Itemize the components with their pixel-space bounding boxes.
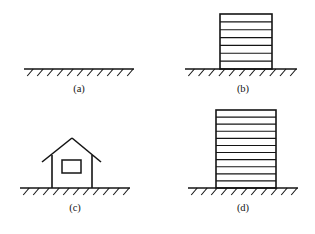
ground-hatching-a: [27, 69, 133, 76]
panel-c: (c): [20, 138, 130, 214]
hatch-tick: [67, 69, 73, 76]
hatch-tick: [281, 188, 287, 195]
hatch-tick: [33, 188, 39, 195]
hatch-tick: [73, 188, 79, 195]
hatch-tick: [37, 69, 43, 76]
hatch-tick: [290, 69, 296, 76]
house-roof-right: [72, 138, 101, 162]
figure-container: (a)(b)(c)(d): [0, 0, 315, 234]
hatch-tick: [47, 69, 53, 76]
hatch-tick: [123, 188, 129, 195]
panels-group: (a)(b)(c)(d): [20, 14, 298, 214]
panel-label-c: (c): [69, 202, 81, 214]
floor-lines-b: [220, 22, 272, 61]
hatch-tick: [280, 69, 286, 76]
hatch-tick: [93, 188, 99, 195]
panel-label-b: (b): [237, 83, 250, 95]
hatch-tick: [219, 69, 225, 76]
hatch-tick: [113, 188, 119, 195]
hatch-tick: [251, 188, 257, 195]
ground-hatching-d: [191, 188, 297, 195]
building-outline-d: [216, 110, 276, 188]
hatch-tick: [127, 69, 133, 76]
hatch-tick: [199, 69, 205, 76]
hatch-tick: [53, 188, 59, 195]
hatch-tick: [229, 69, 235, 76]
hatch-tick: [83, 188, 89, 195]
hatch-tick: [43, 188, 49, 195]
hatch-tick: [117, 69, 123, 76]
hatch-tick: [241, 188, 247, 195]
hatch-tick: [261, 188, 267, 195]
hatch-tick: [260, 69, 266, 76]
hatch-tick: [249, 69, 255, 76]
hatch-tick: [188, 69, 194, 76]
hatch-tick: [57, 69, 63, 76]
building-b: [220, 14, 272, 69]
hatch-tick: [209, 69, 215, 76]
hatch-tick: [63, 188, 69, 195]
house-window: [62, 160, 81, 173]
hatch-tick: [23, 188, 29, 195]
building-d: [216, 110, 276, 188]
panel-label-a: (a): [73, 83, 85, 95]
hatch-tick: [211, 188, 217, 195]
hatch-tick: [27, 69, 33, 76]
hatch-tick: [103, 188, 109, 195]
hatch-tick: [201, 188, 207, 195]
panel-a: (a): [24, 69, 134, 95]
hatch-tick: [191, 188, 197, 195]
panel-b: (b): [185, 14, 297, 95]
panel-d: (d): [188, 110, 298, 214]
hatch-tick: [107, 69, 113, 76]
house-c: [42, 138, 101, 188]
hatch-tick: [231, 188, 237, 195]
hatch-tick: [270, 69, 276, 76]
hatch-tick: [271, 188, 277, 195]
hatch-tick: [239, 69, 245, 76]
panel-label-d: (d): [237, 202, 250, 214]
house-roof-left: [42, 138, 72, 162]
hatch-tick: [87, 69, 93, 76]
ground-hatching-c: [23, 188, 129, 195]
hatch-tick: [221, 188, 227, 195]
hatch-tick: [97, 69, 103, 76]
floor-lines-d: [216, 117, 276, 181]
hatch-tick: [77, 69, 83, 76]
hatch-tick: [291, 188, 297, 195]
ground-hatching-b: [188, 69, 296, 76]
four-panel-structure-diagram: (a)(b)(c)(d): [0, 0, 315, 234]
